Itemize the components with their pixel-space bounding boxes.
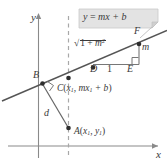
point-label-B: B bbox=[33, 70, 39, 80]
point-C-plus-b: + b bbox=[92, 83, 108, 93]
distance-label: d bbox=[44, 108, 49, 118]
point-label-E: E bbox=[127, 64, 133, 74]
radical-vinculum bbox=[80, 40, 106, 41]
point-label-F: F bbox=[134, 26, 140, 36]
radicand: 1 + m2 bbox=[79, 39, 106, 49]
point-marker-F bbox=[137, 42, 142, 47]
point-label-A: A(x1, y1) bbox=[74, 127, 105, 137]
callout-leader-line bbox=[140, 27, 152, 38]
point-C-paren-close: ) bbox=[108, 83, 111, 93]
equation-equals: = bbox=[87, 11, 98, 22]
callout-folded-corner bbox=[152, 22, 158, 28]
equation-plus-b: + b bbox=[110, 11, 127, 22]
line-equation-label: y = mx + b bbox=[83, 12, 127, 22]
point-label-C: C(x1, mx1 + b) bbox=[57, 84, 112, 94]
point-marker-C bbox=[66, 76, 71, 81]
point-A-paren-close: ) bbox=[102, 126, 105, 136]
x-axis bbox=[8, 143, 158, 149]
x-axis-label: x bbox=[156, 149, 161, 160]
point-marker-B bbox=[40, 81, 45, 86]
radical-group: √1 + m2 bbox=[73, 39, 106, 49]
run-length-label: 1 bbox=[107, 64, 112, 74]
rise-length-label: m bbox=[142, 42, 149, 52]
y-axis-arrowhead bbox=[36, 13, 41, 19]
point-marker-A bbox=[66, 126, 71, 131]
y-axis-label: y bbox=[31, 12, 36, 23]
hypotenuse-length-label: √1 + m2 bbox=[73, 39, 106, 49]
distance-point-to-line-figure: y x y = mx + b √1 + m2 B C(x1, mx1 + b) … bbox=[0, 0, 167, 166]
right-angle-mark-at-B bbox=[48, 82, 54, 92]
point-label-D: D bbox=[90, 64, 97, 74]
